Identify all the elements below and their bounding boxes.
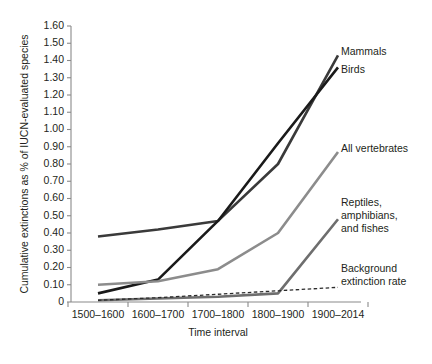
y-tick-label-9: 0.90: [44, 140, 65, 152]
series-line-mammals: [98, 55, 338, 236]
y-tick-marks: [67, 26, 71, 302]
annotation-mammals: Mammals: [341, 45, 387, 57]
y-tick-label-11: 1.10: [44, 105, 65, 117]
annotation-reptiles-line3: and fishes: [341, 222, 389, 234]
annotation-birds: Birds: [341, 63, 365, 75]
y-tick-label-5: 0.50: [44, 209, 65, 221]
x-tick-label-3: 1800–1900: [252, 308, 305, 320]
annotation-reptiles-line2: amphibians,: [341, 209, 398, 221]
y-tick-label-10: 1.00: [44, 122, 65, 134]
annotation-background-line2: extinction rate: [341, 275, 407, 287]
y-axis-title: Cumulative extinctions as % of IUCN-eval…: [18, 34, 30, 293]
x-axis-title: Time interval: [188, 326, 248, 338]
x-tick-label-0: 1500–1600: [72, 308, 125, 320]
x-tick-marks: [68, 302, 368, 307]
y-tick-label-13: 1.30: [44, 71, 65, 83]
y-tick-label-12: 1.20: [44, 88, 65, 100]
series-line-background-extinction-rate: [98, 287, 338, 300]
y-tick-label-4: 0.40: [44, 226, 65, 238]
y-tick-label-7: 0.70: [44, 174, 65, 186]
x-tick-label-2: 1700–1800: [192, 308, 245, 320]
y-tick-label-14: 1.40: [44, 53, 65, 65]
y-tick-label-3: 0.30: [44, 243, 65, 255]
annotation-background-line1: Background: [341, 262, 397, 274]
y-tick-labels: 00.100.200.300.400.500.600.700.800.901.0…: [44, 19, 65, 307]
x-tick-label-1: 1600–1700: [132, 308, 185, 320]
y-tick-label-6: 0.60: [44, 191, 65, 203]
series-group: [98, 55, 338, 300]
y-tick-label-0: 0: [58, 295, 64, 307]
y-tick-label-8: 0.80: [44, 157, 65, 169]
y-tick-label-2: 0.20: [44, 260, 65, 272]
x-tick-label-4: 1900–2014: [312, 308, 365, 320]
y-tick-label-15: 1.50: [44, 36, 65, 48]
annotation-reptiles-line1: Reptiles,: [341, 196, 382, 208]
extinctions-line-chart: 00.100.200.300.400.500.600.700.800.901.0…: [0, 0, 432, 364]
chart-canvas: 00.100.200.300.400.500.600.700.800.901.0…: [0, 0, 432, 364]
y-tick-label-16: 1.60: [44, 19, 65, 31]
annotation-all-vertebrates: All vertebrates: [341, 142, 408, 154]
series-line-birds: [98, 67, 338, 293]
y-tick-label-1: 0.10: [44, 278, 65, 290]
